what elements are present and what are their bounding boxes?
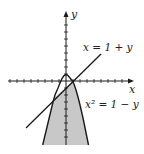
line-label: x = 1 + y	[83, 41, 134, 53]
parabola-label: x² = 1 − y	[85, 98, 140, 110]
x-axis-label: x	[129, 83, 136, 96]
region-diagram: y x x = 1 + y x² = 1 − y	[0, 0, 144, 154]
y-axis-arrow-icon	[64, 11, 69, 17]
y-axis-label: y	[70, 8, 78, 21]
